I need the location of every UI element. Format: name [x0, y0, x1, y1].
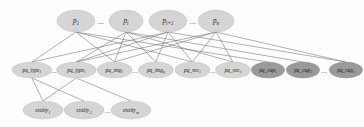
graph-node-pq_cap_2[interactable]: pq_cap2	[286, 62, 319, 78]
graph-node-pq_type_s[interactable]: pq_types	[56, 62, 96, 78]
graph-node-pq_type_1[interactable]: pq_type1	[12, 62, 52, 78]
node-label: pq_img1	[105, 67, 124, 74]
node-label: pq_vec1	[183, 67, 201, 74]
ellipsis-marker: ...	[210, 68, 216, 74]
graph-node-p1[interactable]: p1	[57, 10, 95, 32]
graph-edge	[76, 32, 168, 62]
graph-node-pi[interactable]: pi	[109, 10, 143, 32]
graph-edge	[32, 32, 76, 62]
graph-edge	[43, 78, 76, 101]
graph-edge	[32, 78, 84, 101]
nodes-group: p1pipi+1pnpq_type1pq_typespq_img1pq_imgq…	[12, 10, 363, 119]
graph-node-pq_img_1[interactable]: pq_img1	[97, 62, 132, 78]
graph-edge	[216, 32, 233, 62]
ellipsis-marker: ...	[98, 18, 105, 25]
graph-edge	[76, 32, 216, 62]
ellipsis-marker: ...	[51, 68, 57, 74]
ellipsis-marker: ...	[321, 68, 327, 74]
node-label: pq_imgq	[146, 67, 165, 74]
node-label: pq_type1	[22, 67, 42, 74]
graph-edge	[216, 32, 346, 62]
graph-node-pq_vec_1[interactable]: pq_vec1	[175, 62, 210, 78]
graph-edge	[76, 78, 131, 101]
graph-diagram: p1pipi+1pnpq_type1pq_typespq_img1pq_imgq…	[0, 0, 364, 127]
node-label: pq_vecv	[224, 67, 242, 74]
graph-node-pi1[interactable]: pi+1	[149, 10, 187, 32]
graph-edge	[32, 78, 43, 101]
graph-edge	[126, 32, 233, 62]
graph-edge	[126, 32, 303, 62]
node-label: pq_cap1	[258, 67, 277, 74]
graph-node-pq_cap_1[interactable]: pq_cap1	[251, 62, 284, 78]
node-label: pq_capc	[336, 67, 355, 74]
node-label: pq_cap2	[293, 67, 312, 74]
graph-edge	[32, 32, 168, 62]
graph-edge	[115, 32, 216, 62]
ellipsis-marker: ...	[105, 108, 111, 114]
ellipsis-marker: ...	[132, 68, 138, 74]
graph-node-entity_2[interactable]: entity2	[64, 101, 104, 119]
graph-edge	[76, 32, 115, 62]
graph-edge	[76, 32, 192, 62]
graph-node-entity_1[interactable]: entity1	[23, 101, 63, 119]
graph-node-pn[interactable]: pn	[198, 10, 234, 32]
graph-node-pq_cap_c[interactable]: pq_capc	[329, 62, 362, 78]
graph-node-pq_vec_v[interactable]: pq_vecv	[215, 62, 250, 78]
figure-canvas: p1pipi+1pnpq_type1pq_typespq_img1pq_imgq…	[0, 0, 364, 127]
ellipsis-marker: ...	[190, 18, 197, 25]
graph-edge	[115, 32, 126, 62]
graph-node-entity_m[interactable]: entitym	[111, 101, 151, 119]
node-label: pq_types	[66, 67, 86, 74]
graph-node-pq_img_q[interactable]: pq_imgq	[138, 62, 173, 78]
